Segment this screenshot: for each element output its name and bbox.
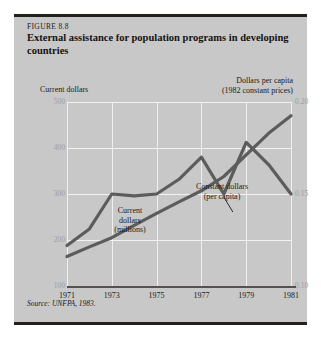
y-axis-right-tick-label: 0.20 bbox=[295, 97, 308, 106]
annotation-constant-dollars-line2: (per capita) bbox=[175, 192, 269, 202]
annotation-current-dollars: Current dollars (millions) bbox=[99, 206, 161, 235]
figure-panel: FIGURE 8.8 External assistance for popul… bbox=[14, 14, 307, 325]
figure-title: External assistance for population progr… bbox=[27, 32, 289, 57]
right-axis-header-line1: Dollars per capita bbox=[153, 76, 293, 86]
x-axis-tick-label: 1973 bbox=[104, 291, 120, 300]
y-axis-right-tick-label: 0.10 bbox=[295, 281, 308, 290]
x-axis-tick-label: 1981 bbox=[283, 291, 299, 300]
x-axis-tick-label: 1977 bbox=[193, 291, 209, 300]
x-axis-tick-label: 1975 bbox=[149, 291, 165, 300]
figure-number: FIGURE 8.8 bbox=[27, 22, 69, 31]
annotation-current-dollars-line1: Current bbox=[99, 206, 161, 216]
y-axis-right-tick-label: 0.15 bbox=[295, 189, 308, 198]
x-axis-tick-label: 1979 bbox=[238, 291, 254, 300]
annotation-constant-dollars-line1: Constant dollars bbox=[175, 182, 269, 192]
annotation-current-dollars-line3: (millions) bbox=[99, 225, 161, 235]
chart-plot-area: 100200300400500 0.100.150.20 19711973197… bbox=[53, 88, 291, 286]
figure-source: Source: UNFPA, 1983. bbox=[27, 299, 96, 308]
annotation-current-dollars-line2: dollars bbox=[99, 216, 161, 226]
annotation-constant-dollars: Constant dollars (per capita) bbox=[175, 182, 269, 201]
figure-top-rule bbox=[14, 14, 307, 17]
figure-bottom-rule bbox=[14, 322, 307, 325]
figure-source-text: Source: UNFPA, 1983. bbox=[27, 299, 96, 308]
